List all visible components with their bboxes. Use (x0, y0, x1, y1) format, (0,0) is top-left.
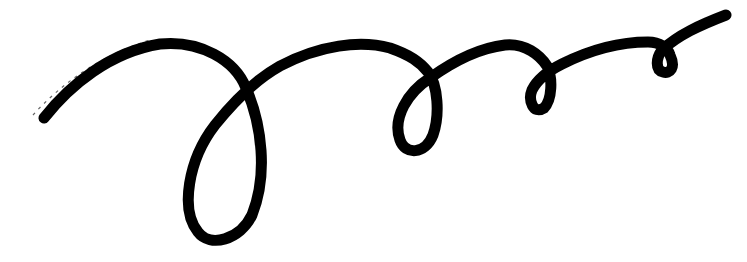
swirl-illustration (0, 0, 747, 262)
swirl-line-drawing (0, 0, 747, 262)
swirl-stroke (44, 15, 726, 240)
